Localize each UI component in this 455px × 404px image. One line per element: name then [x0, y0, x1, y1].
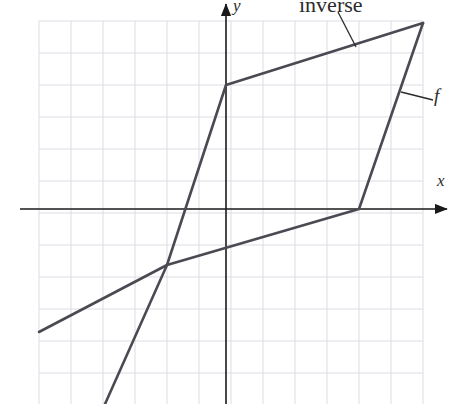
f-leader-line	[401, 92, 433, 100]
graph-figure: inverse f y x	[0, 0, 455, 404]
y-axis-label: y	[233, 0, 241, 14]
inverse-leader-line	[338, 12, 356, 47]
coordinate-plot	[0, 0, 455, 404]
f-label: f	[434, 86, 439, 105]
curve-f	[105, 23, 423, 404]
inverse-label: inverse	[299, 0, 363, 16]
x-axis-label: x	[437, 172, 445, 189]
grid	[39, 21, 423, 404]
